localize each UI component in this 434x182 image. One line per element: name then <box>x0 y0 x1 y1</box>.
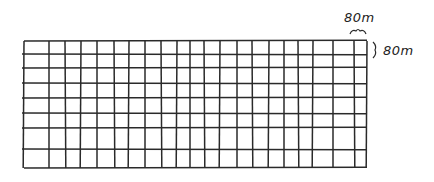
grid-horizontal-line <box>22 97 367 98</box>
cell-height-label: 80m <box>383 43 414 58</box>
grid-horizontal-lines <box>22 40 367 168</box>
grid-horizontal-line <box>22 127 367 128</box>
grid-horizontal-line <box>22 113 367 114</box>
cell-width-label: 80m <box>344 10 375 25</box>
grid-horizontal-line <box>22 54 367 55</box>
height-brace-icon <box>373 42 376 58</box>
grid-horizontal-line <box>24 40 367 41</box>
grid-diagram <box>0 0 434 182</box>
grid-vertical-line <box>366 41 367 168</box>
grid-horizontal-line <box>22 83 367 84</box>
grid-horizontal-line <box>22 149 367 150</box>
grid-horizontal-line <box>24 167 367 168</box>
width-brace-icon <box>350 30 366 35</box>
grid-vertical-line <box>354 41 355 168</box>
grid-horizontal-line <box>22 67 367 68</box>
